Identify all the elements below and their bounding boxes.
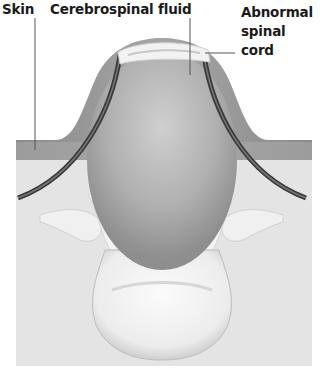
label-cord: cord — [241, 42, 274, 59]
label-abnormal: Abnormal — [241, 4, 313, 21]
label-spinal: spinal — [241, 23, 285, 40]
spinal-defect-illustration — [0, 0, 323, 376]
label-cerebrospinal-fluid: Cerebrospinal fluid — [50, 1, 191, 18]
sac — [87, 50, 237, 270]
label-skin: Skin — [2, 1, 34, 18]
